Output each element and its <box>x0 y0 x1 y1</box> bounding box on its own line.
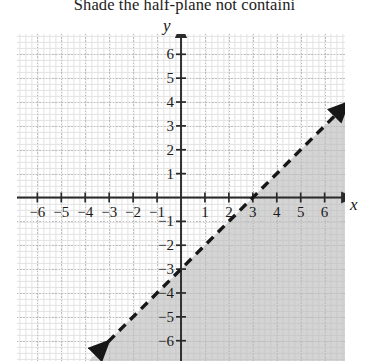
x-tick-label-4: 4 <box>273 205 281 220</box>
x-tick-label--6: −6 <box>29 205 45 220</box>
y-tick-label--5: −5 <box>158 309 174 324</box>
x-axis-label: x <box>350 196 358 213</box>
y-tick-label--1: −1 <box>158 214 174 229</box>
coordinate-plane-figure: −6−5−4−3−2−1123456−6−5−4−3−2−1123456 x y <box>0 18 369 361</box>
y-tick-label--4: −4 <box>158 286 174 301</box>
x-tick-label--2: −2 <box>125 205 141 220</box>
x-tick-label--4: −4 <box>77 205 93 220</box>
x-tick-label-3: 3 <box>249 205 257 220</box>
y-tick-label-3: 3 <box>167 118 175 133</box>
y-tick-label-6: 6 <box>167 47 175 62</box>
y-tick-label--6: −6 <box>158 333 174 348</box>
y-tick-label-1: 1 <box>167 166 175 181</box>
exercise-prompt: Shade the half-plane not containi <box>0 0 369 15</box>
x-tick-label-5: 5 <box>297 205 305 220</box>
y-tick-label-4: 4 <box>167 95 175 110</box>
x-tick-label-2: 2 <box>225 205 233 220</box>
x-tick-label-6: 6 <box>321 205 329 220</box>
x-tick-label--5: −5 <box>53 205 69 220</box>
x-tick-label-1: 1 <box>201 205 209 220</box>
y-tick-label-5: 5 <box>167 71 175 86</box>
x-tick-label--3: −3 <box>101 205 117 220</box>
plot-vector-layer <box>17 34 345 361</box>
plot-grid-area <box>17 34 345 361</box>
y-axis-label: y <box>163 17 171 34</box>
y-tick-label-2: 2 <box>167 142 175 157</box>
y-tick-label--2: −2 <box>158 238 174 253</box>
y-tick-label--3: −3 <box>158 262 174 277</box>
